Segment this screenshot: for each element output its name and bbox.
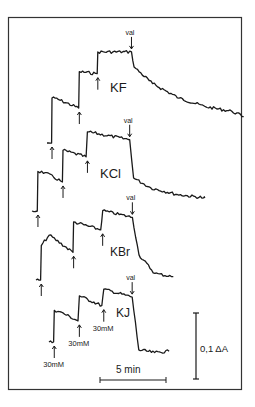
trace-kj: [49, 289, 169, 353]
washout-label-kcl: val: [124, 117, 133, 124]
absorbance-scale-label: 0,1 ΔA: [200, 343, 229, 354]
time-scale-label: 5 min: [116, 364, 140, 375]
figure: KFvalKClvalKBrvalKJ30mM30mM30mMval 0,1 Δ…: [0, 0, 255, 407]
series-label-kcl: KCl: [100, 166, 121, 181]
series-label-kbr: KBr: [110, 245, 130, 259]
frame: [9, 18, 242, 390]
concentration-label-3: 30mM: [93, 324, 114, 333]
trace-kbr: [36, 210, 173, 280]
washout-label-kj: val: [126, 274, 135, 281]
concentration-label-1: 30mM: [43, 360, 64, 369]
washout-label-kbr: val: [126, 194, 135, 201]
series-label-kj: KJ: [116, 306, 130, 320]
washout-label-kf: val: [125, 29, 134, 36]
trace-kf: [47, 51, 244, 144]
series-label-kf: KF: [110, 80, 127, 95]
concentration-label-2: 30mM: [68, 339, 89, 348]
